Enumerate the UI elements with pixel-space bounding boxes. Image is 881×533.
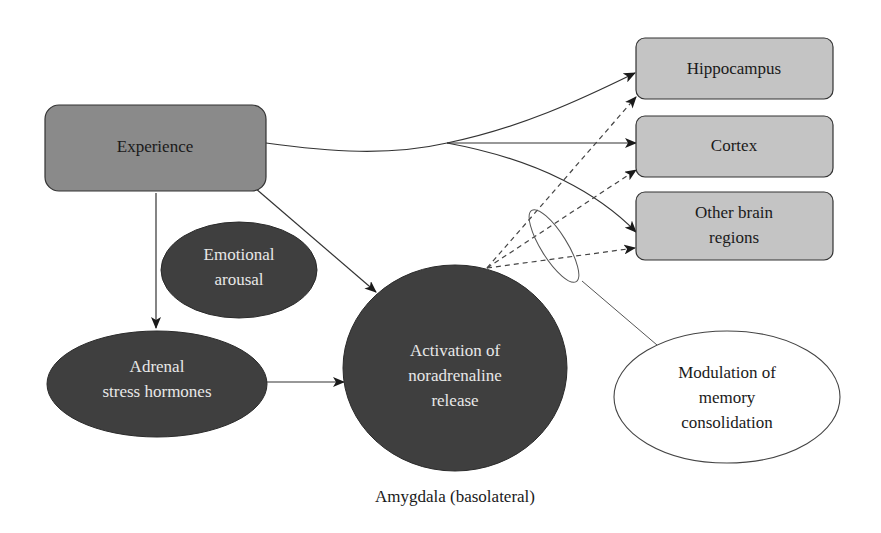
- modulation-label-line2: memory: [699, 388, 756, 407]
- cortex-label: Cortex: [711, 136, 758, 155]
- node-other-brain-regions[interactable]: Other brain regions: [636, 192, 833, 260]
- noradrenaline-label-line1: Activation of: [410, 341, 501, 360]
- node-emotional-arousal[interactable]: Emotional arousal: [161, 222, 317, 318]
- emotional-arousal-label-line1: Emotional: [204, 245, 275, 264]
- other-regions-label-line2: regions: [709, 228, 759, 247]
- emotional-arousal-label-line2: arousal: [214, 270, 263, 289]
- experience-label: Experience: [117, 137, 193, 156]
- node-cortex[interactable]: Cortex: [636, 116, 833, 177]
- noradrenaline-label-line2: noradrenaline: [408, 366, 501, 385]
- other-regions-label-line1: Other brain: [695, 203, 773, 222]
- node-modulation-memory-consolidation[interactable]: Modulation of memory consolidation: [614, 331, 840, 463]
- edge-experience-other-regions: [447, 143, 636, 232]
- edge-noradrenaline-hippocampus: [487, 97, 636, 268]
- dashed-bundle-ellipse: [521, 203, 588, 288]
- hippocampus-label: Hippocampus: [687, 59, 781, 78]
- node-adrenal-stress-hormones[interactable]: Adrenal stress hormones: [47, 331, 267, 437]
- node-hippocampus[interactable]: Hippocampus: [636, 38, 833, 99]
- modulation-label-line1: Modulation of: [678, 363, 776, 382]
- adrenal-label-line1: Adrenal: [130, 357, 185, 376]
- edge-modulation-bundle: [582, 281, 657, 345]
- node-noradrenaline-release[interactable]: Activation of noradrenaline release: [343, 265, 567, 471]
- modulation-label-line3: consolidation: [681, 413, 773, 432]
- edge-experience-hippocampus: [266, 73, 635, 151]
- edge-noradrenaline-cortex: [487, 170, 636, 268]
- adrenal-label-line2: stress hormones: [102, 382, 211, 401]
- amygdala-caption: Amygdala (basolateral): [375, 487, 535, 506]
- memory-modulation-diagram: Experience Hippocampus Cortex Other brai…: [0, 0, 881, 533]
- edge-noradrenaline-other-regions: [487, 248, 635, 268]
- noradrenaline-label-line3: release: [431, 391, 478, 410]
- node-experience[interactable]: Experience: [45, 105, 266, 191]
